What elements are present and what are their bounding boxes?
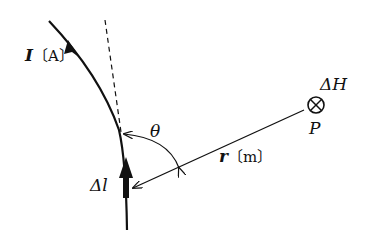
distance-unit: 〔m〕 [228,148,272,166]
delta-l-label: Δl [90,177,108,194]
current-label: I〔A〕 [25,47,74,64]
biot-savart-diagram: I〔A〕 θ r〔m〕 Δl ΔH P [0,0,375,242]
point-p-label: P [309,120,320,137]
delta-h-label: ΔH [320,76,347,93]
distance-symbol: r [219,146,228,166]
current-symbol: I [25,45,33,65]
current-unit: 〔A〕 [33,47,74,65]
field-into-page-icon [308,97,324,113]
distance-label: r〔m〕 [219,148,272,165]
theta-label: θ [150,123,160,140]
delta-l-arrow-icon [119,157,133,178]
